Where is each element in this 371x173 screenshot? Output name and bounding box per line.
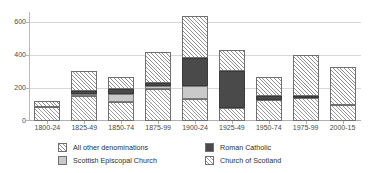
bar-group-1875-99[interactable] [145,12,171,121]
diagonal-hatch-swatch-icon [205,156,214,165]
y-tick-label-0: 0 [2,117,26,124]
x-tick-label-1850-74: 1850-74 [103,124,140,132]
bar-segment-all-other-denominations-1975-99[interactable] [293,55,319,96]
bar-segment-church-of-scotland-1950-74[interactable] [256,100,282,121]
bar-segment-all-other-denominations-1825-49[interactable] [71,71,97,92]
y-tick-label-200: 200 [2,84,26,91]
legend-label-roman-catholic: Roman Catholic [220,143,271,152]
light-grey-swatch-icon [58,156,67,165]
x-tick-label-2000-15: 2000-15 [324,124,361,132]
x-tick-label-1900-24: 1900-24 [177,124,214,132]
bar-segment-church-of-scotland-1900-24[interactable] [182,99,208,121]
plot-area-wrapper: 600 400 200 0 1800-241825-491850-741875-… [0,0,371,138]
bar-segment-roman-catholic-1825-49[interactable] [71,91,97,94]
x-tick-label-1800-24: 1800-24 [29,124,66,132]
bar-segment-church-of-scotland-1875-99[interactable] [145,89,171,121]
bar-group-1975-99[interactable] [293,12,319,121]
plot-area [29,12,361,121]
y-tick-label-400: 400 [2,51,26,58]
legend-item-all-other-denominations[interactable]: All other denominations [58,142,148,153]
bar-segment-all-other-denominations-2000-15[interactable] [330,67,356,105]
bar-segment-roman-catholic-1925-49[interactable] [219,71,245,108]
legend-item-church-of-scotland[interactable]: Church of Scotland [205,155,281,166]
bar-segment-church-of-scotland-2000-15[interactable] [330,105,356,121]
bar-segment-church-of-scotland-1925-49[interactable] [219,108,245,121]
bar-group-1800-24[interactable] [34,12,60,121]
legend-item-roman-catholic[interactable]: Roman Catholic [205,142,271,153]
y-tick-label-600: 600 [2,18,26,25]
bar-group-1925-49[interactable] [219,12,245,121]
cross-hatch-swatch-icon [58,143,67,152]
y-axis-tick-labels: 600 400 200 0 [0,0,26,138]
x-tick-label-1925-49: 1925-49 [213,124,250,132]
bar-segment-all-other-denominations-1850-74[interactable] [108,77,134,89]
bar-segment-all-other-denominations-1800-24[interactable] [34,101,60,107]
bar-group-1900-24[interactable] [182,12,208,121]
chart-legend: All other denominations Scottish Episcop… [0,140,371,170]
legend-label-church-of-scotland: Church of Scotland [220,156,281,165]
x-tick-label-1950-74: 1950-74 [250,124,287,132]
legend-item-scottish-episcopal-church[interactable]: Scottish Episcopal Church [58,155,157,166]
bar-segment-scottish-episcopal-church-1875-99[interactable] [145,86,171,88]
bar-group-2000-15[interactable] [330,12,356,121]
legend-label-all-other-denominations: All other denominations [73,143,148,152]
bar-segment-all-other-denominations-1875-99[interactable] [145,52,171,83]
bar-segment-church-of-scotland-1825-49[interactable] [71,96,97,121]
bar-group-1850-74[interactable] [108,12,134,121]
bar-segment-all-other-denominations-1900-24[interactable] [182,16,208,58]
legend-label-scottish-episcopal-church: Scottish Episcopal Church [73,156,157,165]
bar-segment-roman-catholic-1875-99[interactable] [145,83,171,86]
bars-layer [29,12,361,121]
bar-segment-church-of-scotland-1850-74[interactable] [108,102,134,121]
dark-solid-swatch-icon [205,143,214,152]
x-axis-tick-labels: 1800-241825-491850-741875-991900-241925-… [29,124,361,136]
bar-group-1950-74[interactable] [256,12,282,121]
bar-segment-roman-catholic-1900-24[interactable] [182,58,208,85]
x-tick-label-1875-99: 1875-99 [140,124,177,132]
bar-segment-roman-catholic-1950-74[interactable] [256,96,282,100]
bar-group-1825-49[interactable] [71,12,97,121]
x-tick-label-1825-49: 1825-49 [66,124,103,132]
bar-segment-all-other-denominations-1950-74[interactable] [256,77,282,96]
bar-segment-scottish-episcopal-church-1850-74[interactable] [108,94,134,102]
bar-segment-all-other-denominations-1925-49[interactable] [219,50,245,71]
bar-segment-roman-catholic-1850-74[interactable] [108,89,134,94]
bar-segment-church-of-scotland-1800-24[interactable] [34,107,60,121]
bar-segment-scottish-episcopal-church-1825-49[interactable] [71,94,97,96]
stacked-bar-chart: 600 400 200 0 1800-241825-491850-741875-… [0,0,371,173]
bar-segment-scottish-episcopal-church-1900-24[interactable] [182,86,208,99]
x-tick-label-1975-99: 1975-99 [287,124,324,132]
bar-segment-church-of-scotland-1975-99[interactable] [293,98,319,121]
